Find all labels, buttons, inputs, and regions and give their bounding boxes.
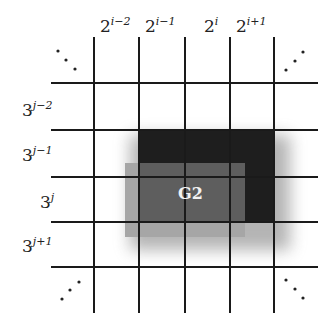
grid-canvas — [0, 0, 332, 332]
grid-diagram: 2i−22i−12i2i+1 3j−23j−13j3j+1 G2 — [0, 0, 332, 332]
column-label: 2i — [204, 16, 218, 35]
row-label: 3j−1 — [22, 145, 52, 164]
row-label: 3j+1 — [22, 236, 52, 255]
column-label: 2i−2 — [100, 16, 131, 35]
region-label-g2: G2 — [178, 184, 203, 203]
column-label: 2i−1 — [145, 16, 176, 35]
row-label: 3j−2 — [22, 100, 52, 119]
column-label: 2i+1 — [236, 16, 267, 35]
row-label: 3j — [40, 192, 54, 211]
